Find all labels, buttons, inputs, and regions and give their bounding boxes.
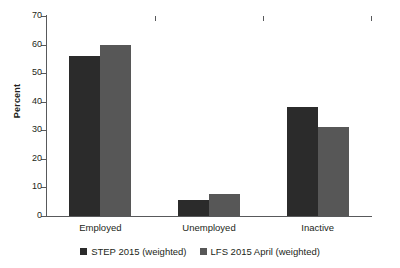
- bar: [318, 127, 349, 216]
- x-tick-mark: [371, 16, 372, 21]
- legend-item-2: LFS 2015 April (weighted): [200, 246, 320, 257]
- legend-label: LFS 2015 April (weighted): [211, 246, 320, 257]
- bar: [287, 107, 318, 216]
- y-tick-label: 0: [37, 210, 42, 221]
- y-axis-title: Percent: [12, 61, 22, 141]
- y-tick-label: 30: [32, 124, 42, 135]
- legend-swatch-icon: [80, 248, 87, 255]
- legend-label: STEP 2015 (weighted): [91, 246, 186, 257]
- x-axis-spine: [46, 216, 372, 217]
- bar-chart-figure: Percent 010203040506070 EmployedUnemploy…: [0, 0, 400, 268]
- y-tick-label: 10: [32, 181, 42, 192]
- x-category-label-inactive: Inactive: [258, 222, 378, 234]
- chart-legend: STEP 2015 (weighted)LFS 2015 April (weig…: [0, 246, 400, 257]
- bar: [209, 194, 240, 216]
- bar: [100, 45, 131, 216]
- y-tick-label: 60: [32, 39, 42, 50]
- bar: [178, 200, 209, 216]
- y-tick-label: 50: [32, 67, 42, 78]
- x-category-label-unemployed: Unemployed: [149, 222, 269, 234]
- y-tick-label: 20: [32, 153, 42, 164]
- x-tick-mark: [155, 16, 156, 21]
- y-tick-label: 70: [32, 10, 42, 21]
- legend-item-1: STEP 2015 (weighted): [80, 246, 186, 257]
- legend-swatch-icon: [200, 248, 207, 255]
- x-category-label-employed: Employed: [40, 222, 160, 234]
- x-tick-mark: [263, 16, 264, 21]
- y-tick-label: 40: [32, 96, 42, 107]
- bar: [69, 56, 100, 216]
- plot-area: 010203040506070: [46, 16, 372, 216]
